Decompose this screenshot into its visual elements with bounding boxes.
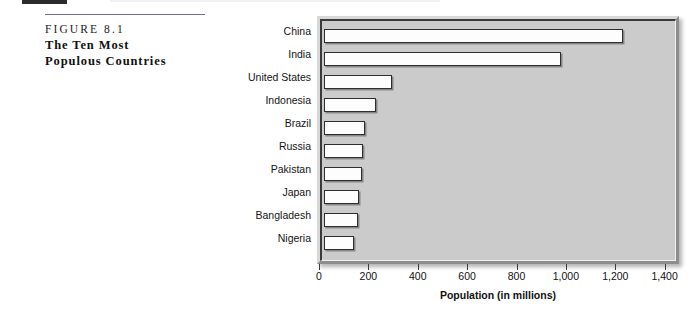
bar-united-states [324, 75, 392, 89]
bar-row [324, 71, 675, 94]
bar-brazil [324, 121, 365, 135]
category-label-brazil: Brazil [195, 112, 311, 135]
x-tick-label: 600 [458, 270, 476, 282]
chart-frame [317, 16, 679, 264]
x-tick-label: 0 [316, 270, 322, 282]
bar-pakistan [324, 167, 362, 181]
page-header-crop-bar [22, 0, 67, 4]
category-label-united-states: United States [195, 66, 311, 89]
x-tick-label: 400 [409, 270, 427, 282]
bar-row [324, 163, 675, 186]
x-tick-label: 1,400 [652, 270, 678, 282]
bar-row [324, 94, 675, 117]
bar-row [324, 117, 675, 140]
bars-layer [324, 25, 675, 254]
plot-area [320, 19, 676, 261]
category-axis-labels: ChinaIndiaUnited StatesIndonesiaBrazilRu… [195, 20, 311, 250]
category-label-bangladesh: Bangladesh [195, 204, 311, 227]
bar-india [324, 52, 561, 66]
x-axis-title: Population (in millions) [317, 289, 679, 301]
caption-divider-rule [45, 14, 205, 15]
category-label-indonesia: Indonesia [195, 89, 311, 112]
bar-row [324, 48, 675, 71]
bar-nigeria [324, 236, 354, 250]
bar-row [324, 232, 675, 255]
bar-japan [324, 190, 359, 204]
bar-row [324, 209, 675, 232]
category-label-russia: Russia [195, 135, 311, 158]
category-label-pakistan: Pakistan [195, 158, 311, 181]
page-header-crop-faint [110, 0, 440, 2]
bar-bangladesh [324, 213, 358, 227]
bar-china [324, 29, 623, 43]
x-tick-label: 1,000 [553, 270, 579, 282]
x-axis-tick-labels: 02004006008001,0001,2001,400 [317, 270, 679, 286]
x-tick-label: 800 [508, 270, 526, 282]
bar-row [324, 186, 675, 209]
category-label-nigeria: Nigeria [195, 227, 311, 250]
category-label-japan: Japan [195, 181, 311, 204]
bar-russia [324, 144, 363, 158]
bar-indonesia [324, 98, 376, 112]
bar-row [324, 25, 675, 48]
category-label-india: India [195, 43, 311, 66]
x-tick-label: 1,200 [602, 270, 628, 282]
bar-row [324, 140, 675, 163]
category-label-china: China [195, 20, 311, 43]
x-tick-label: 200 [360, 270, 378, 282]
